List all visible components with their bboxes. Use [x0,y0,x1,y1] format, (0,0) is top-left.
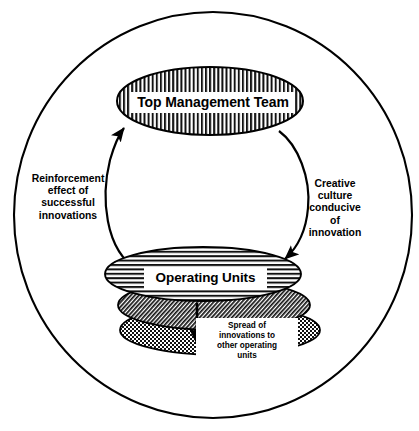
operating-units-label: Operating Units [144,268,267,289]
reinforcement-arrow-label: Reinforcement effect of successful innov… [16,173,120,222]
diagram-root: Top Management Team Operating Units Spre… [0,0,419,431]
spread-arrow-label: Spread of innovations to other operating… [196,318,298,365]
top-management-team-label: Top Management Team [131,92,295,113]
creative-culture-arrow-label: Creative culture conducive of innovation [292,178,378,239]
